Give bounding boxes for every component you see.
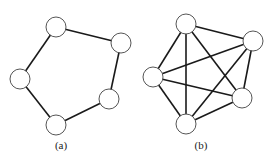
complete-graph-b xyxy=(143,14,263,134)
graph-node xyxy=(232,88,252,108)
graph-node xyxy=(46,115,66,135)
graph-node xyxy=(176,14,196,34)
graph-node xyxy=(10,69,30,89)
graph-node xyxy=(176,114,196,134)
graph-node xyxy=(143,67,163,87)
graph-node xyxy=(46,17,66,37)
graph-node xyxy=(99,89,119,109)
caption-a: (a) xyxy=(55,139,68,152)
caption-b: (b) xyxy=(195,139,208,152)
graph-diagram: (a) (b) xyxy=(0,0,271,155)
graph-node xyxy=(111,33,131,53)
graph-node xyxy=(243,31,263,51)
cycle-graph-a xyxy=(10,17,131,135)
